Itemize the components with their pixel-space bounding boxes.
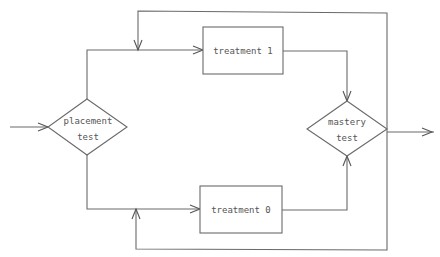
edge-treatment1-to-mastery [283,51,351,101]
treatment-0-node: treatment 0 [200,186,282,233]
mastery-test-diamond [307,101,387,156]
mastery-test-node: mastery test [307,101,387,156]
mastery-test-label-line1: mastery [328,117,367,127]
edge-placement-to-treatment1 [87,46,203,99]
mastery-test-label-line2: test [336,133,358,143]
input-arrow [10,123,48,131]
edge-treatment0-to-mastery [282,156,351,210]
output-arrow [387,128,434,136]
treatment-1-label: treatment 1 [213,46,273,56]
placement-test-diamond [48,99,127,155]
placement-test-label-line2: test [77,132,99,142]
edge-placement-to-treatment0 [87,155,200,213]
placement-test-node: placement test [48,99,127,155]
treatment-0-label: treatment 0 [211,205,271,215]
flowchart-diagram: placement test treatment 1 treatment 0 m… [0,0,440,257]
placement-test-label-line1: placement [64,116,113,126]
treatment-1-node: treatment 1 [203,27,283,74]
